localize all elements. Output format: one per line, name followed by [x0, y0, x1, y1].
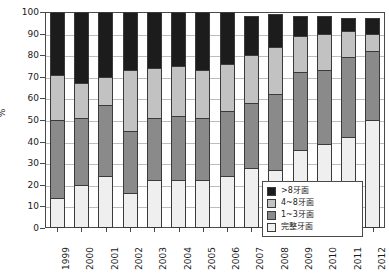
y-tick-label: 50	[28, 115, 39, 125]
y-tick-label: 90	[28, 29, 39, 39]
bar-2005	[195, 12, 210, 228]
bar-segment->8牙面	[341, 18, 356, 31]
x-tick-label: 2008	[280, 247, 290, 270]
bar-segment-1~3牙面	[293, 72, 308, 150]
bar-segment-完整牙面	[74, 185, 89, 228]
y-tick-label: 0	[33, 223, 39, 233]
bar-segment-1~3牙面	[123, 131, 138, 194]
bar-segment-4~8牙面	[147, 68, 162, 118]
bar-segment->8牙面	[317, 16, 332, 33]
bar-segment-完整牙面	[123, 193, 138, 228]
legend-item: >8牙面	[267, 185, 358, 197]
bar-segment-4~8牙面	[220, 64, 235, 112]
bar-segment-1~3牙面	[220, 111, 235, 176]
bar-2007	[244, 12, 259, 228]
x-tick-mark	[373, 228, 374, 232]
legend-swatch-icon	[267, 211, 276, 220]
bar-segment-4~8牙面	[74, 83, 89, 118]
bar-segment->8牙面	[50, 12, 65, 75]
x-tick-label: 2006	[231, 247, 241, 270]
bar-segment->8牙面	[220, 12, 235, 64]
bar-segment-4~8牙面	[98, 77, 113, 105]
x-tick-label: 2012	[377, 247, 387, 270]
bar-2003	[147, 12, 162, 228]
bar-segment-1~3牙面	[74, 118, 89, 185]
x-tick-label: 2004	[183, 247, 193, 270]
bar-2006	[220, 12, 235, 228]
bar-2004	[171, 12, 186, 228]
y-axis: 0102030405060708090100	[0, 0, 45, 230]
y-tick-label: 80	[28, 50, 39, 60]
bar-segment-1~3牙面	[171, 116, 186, 181]
bar-segment->8牙面	[244, 16, 259, 55]
x-tick-mark	[81, 228, 82, 232]
bar-segment-1~3牙面	[268, 94, 283, 170]
bar-segment-1~3牙面	[98, 105, 113, 176]
bar-segment-4~8牙面	[195, 70, 210, 118]
legend-label: >8牙面	[281, 186, 309, 196]
bar-segment-完整牙面	[195, 180, 210, 228]
bar-segment->8牙面	[74, 12, 89, 83]
x-tick-mark	[227, 228, 228, 232]
legend-label: 4~8牙面	[281, 198, 314, 208]
bar-segment-4~8牙面	[293, 36, 308, 73]
bar-segment-完整牙面	[171, 180, 186, 228]
bar-1999	[50, 12, 65, 228]
bar-segment->8牙面	[98, 12, 113, 77]
x-tick-mark	[154, 228, 155, 232]
bar-segment-4~8牙面	[365, 34, 380, 51]
bar-segment-完整牙面	[98, 176, 113, 228]
bar-segment-4~8牙面	[50, 75, 65, 120]
x-tick-label: 2009	[304, 247, 314, 270]
y-tick-label: 40	[28, 137, 39, 147]
y-tick-label: 100	[22, 7, 39, 17]
bar-segment-1~3牙面	[341, 57, 356, 137]
x-tick-mark	[130, 228, 131, 232]
bar-2000	[74, 12, 89, 228]
y-tick-label: 20	[28, 180, 39, 190]
bar-segment->8牙面	[195, 12, 210, 70]
x-tick-mark	[203, 228, 204, 232]
chart-legend: >8牙面4~8牙面1~3牙面完整牙面	[262, 181, 363, 237]
bar-segment->8牙面	[123, 12, 138, 70]
bar-segment->8牙面	[365, 18, 380, 33]
y-tick-mark	[40, 228, 45, 229]
x-tick-label: 1999	[61, 247, 71, 270]
bar-segment-1~3牙面	[50, 120, 65, 198]
legend-swatch-icon	[267, 199, 276, 208]
bar-segment-完整牙面	[365, 120, 380, 228]
bar-segment-1~3牙面	[147, 118, 162, 181]
stacked-bar-chart: % 0102030405060708090100 199920002001200…	[0, 0, 389, 274]
x-tick-mark	[57, 228, 58, 232]
bar-segment-完整牙面	[244, 168, 259, 228]
x-tick-mark	[179, 228, 180, 232]
bar-segment-4~8牙面	[123, 70, 138, 130]
legend-item: 1~3牙面	[267, 209, 358, 221]
bar-2012	[365, 12, 380, 228]
bar-2001	[98, 12, 113, 228]
legend-item: 完整牙面	[267, 221, 358, 233]
bar-segment->8牙面	[293, 16, 308, 35]
bar-segment-1~3牙面	[195, 118, 210, 181]
x-tick-label: 2000	[85, 247, 95, 270]
bar-segment->8牙面	[268, 14, 283, 46]
bar-segment-1~3牙面	[244, 103, 259, 168]
bar-segment-4~8牙面	[244, 55, 259, 103]
legend-label: 1~3牙面	[281, 210, 314, 220]
y-tick-label: 10	[28, 201, 39, 211]
y-tick-label: 70	[28, 72, 39, 82]
legend-item: 4~8牙面	[267, 197, 358, 209]
legend-label: 完整牙面	[281, 222, 313, 232]
x-axis: 1999200020012002200320042005200620072008…	[45, 232, 385, 274]
bar-segment-4~8牙面	[268, 47, 283, 95]
bar-segment-1~3牙面	[317, 70, 332, 143]
bar-segment->8牙面	[171, 12, 186, 66]
bar-segment-4~8牙面	[341, 31, 356, 57]
bar-2002	[123, 12, 138, 228]
x-tick-label: 2001	[110, 247, 120, 270]
x-tick-label: 2003	[158, 247, 168, 270]
x-tick-mark	[106, 228, 107, 232]
x-tick-label: 2007	[255, 247, 265, 270]
legend-swatch-icon	[267, 223, 276, 232]
bar-segment-4~8牙面	[317, 34, 332, 71]
